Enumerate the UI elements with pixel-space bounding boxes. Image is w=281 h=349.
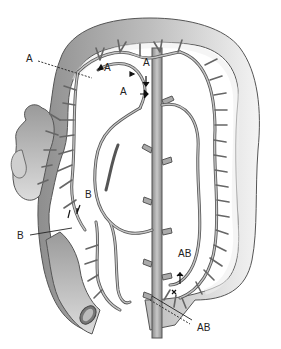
label-b-upper: B xyxy=(85,190,92,200)
figure-caption xyxy=(16,339,266,349)
colon-vascular-diagram xyxy=(0,0,281,349)
pointer-line-B xyxy=(30,228,72,235)
main-artery-trunk xyxy=(142,48,174,338)
label-a-upper-right: A xyxy=(143,58,150,68)
colon-body xyxy=(11,18,259,334)
label-a-middle: A xyxy=(120,87,127,97)
label-b-left-pointer: B xyxy=(17,231,24,241)
label-ab-upper: AB xyxy=(178,249,191,259)
label-ab-lower-pointer: AB xyxy=(197,323,210,333)
label-a-upper-left: A xyxy=(104,63,111,73)
label-a-left-pointer: A xyxy=(26,54,33,64)
